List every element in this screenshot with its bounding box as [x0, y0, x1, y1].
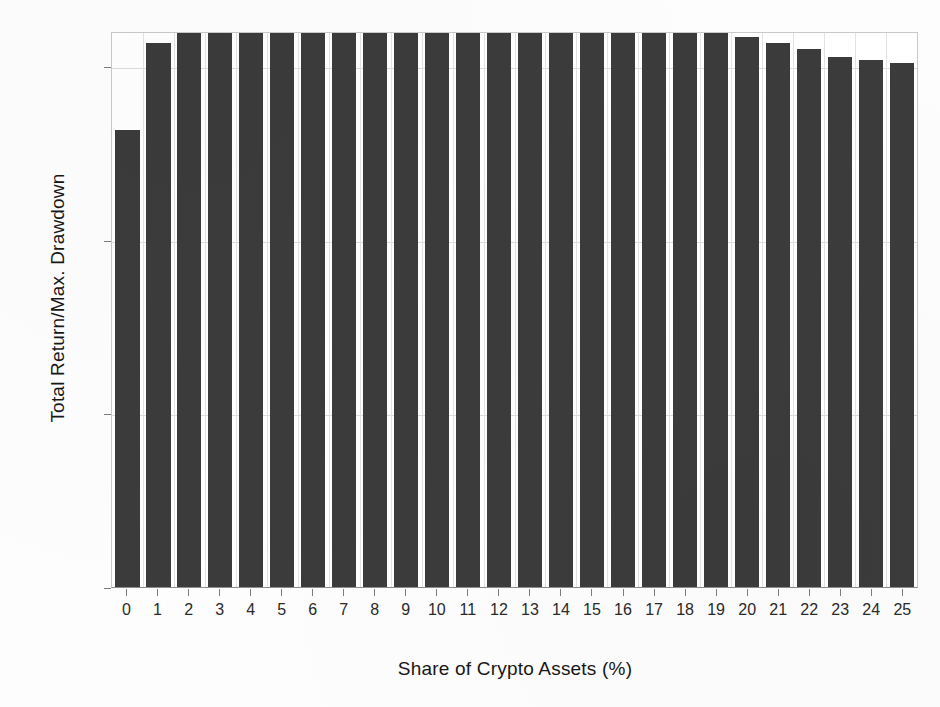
- bar[interactable]: [642, 32, 666, 587]
- x-tick-slot: 24: [856, 589, 887, 635]
- x-tick-mark: [250, 589, 251, 596]
- x-tick-mark: [902, 589, 903, 596]
- x-tick-mark: [281, 589, 282, 596]
- x-tick-slot: 6: [297, 589, 328, 635]
- bar[interactable]: [766, 43, 790, 587]
- x-tick-label: 10: [428, 601, 446, 619]
- bar[interactable]: [394, 32, 418, 587]
- bar[interactable]: [425, 32, 449, 587]
- bar-slot: [762, 33, 793, 587]
- bar[interactable]: [890, 63, 914, 587]
- x-tick-mark: [467, 589, 468, 596]
- bar-slot: [112, 33, 143, 587]
- x-tick-mark: [654, 589, 655, 596]
- x-tick-mark: [157, 589, 158, 596]
- bar-slot: [360, 33, 391, 587]
- x-tick-slot: 15: [576, 589, 607, 635]
- x-tick-slot: 13: [514, 589, 545, 635]
- x-tick-label: 14: [552, 601, 570, 619]
- x-tick-slot: 10: [421, 589, 452, 635]
- x-tick-slot: 5: [266, 589, 297, 635]
- bar-slot: [515, 33, 546, 587]
- x-tick-label: 15: [583, 601, 601, 619]
- bar[interactable]: [239, 32, 263, 587]
- x-tick-mark: [685, 589, 686, 596]
- bar-slot: [855, 33, 886, 587]
- bar[interactable]: [859, 60, 883, 587]
- x-tick-slot: 14: [545, 589, 576, 635]
- bar-slot: [298, 33, 329, 587]
- x-tick-mark: [529, 589, 530, 596]
- x-tick-label: 23: [831, 601, 849, 619]
- x-tick-slot: 7: [328, 589, 359, 635]
- x-tick-slot: 8: [359, 589, 390, 635]
- x-tick-mark: [436, 589, 437, 596]
- x-tick-slot: 11: [452, 589, 483, 635]
- x-tick-label: 24: [862, 601, 880, 619]
- bar[interactable]: [115, 130, 139, 587]
- bar-chart: Total Return/Max. Drawdown 0%2%5%8% 0123…: [0, 0, 940, 707]
- bar-series: [112, 33, 917, 587]
- x-tick-slot: 25: [887, 589, 918, 635]
- bar-slot: [174, 33, 205, 587]
- bar[interactable]: [487, 32, 511, 587]
- x-tick-mark: [591, 589, 592, 596]
- y-tick-mark: [104, 414, 111, 415]
- bar-slot: [236, 33, 267, 587]
- x-tick-label: 20: [738, 601, 756, 619]
- bar-slot: [546, 33, 577, 587]
- x-tick-mark: [188, 589, 189, 596]
- x-tick-slot: 16: [608, 589, 639, 635]
- bar-slot: [731, 33, 762, 587]
- x-tick-label: 7: [339, 601, 348, 619]
- plot-area: [111, 32, 918, 588]
- x-tick-label: 12: [490, 601, 508, 619]
- x-tick-label: 3: [215, 601, 224, 619]
- x-tick-label: 25: [893, 601, 911, 619]
- bar[interactable]: [797, 49, 821, 587]
- bar[interactable]: [208, 32, 232, 587]
- x-tick-label: 13: [521, 601, 539, 619]
- x-tick-slot: 12: [483, 589, 514, 635]
- bar[interactable]: [549, 32, 573, 587]
- x-tick-label: 16: [614, 601, 632, 619]
- bar[interactable]: [301, 32, 325, 587]
- bar-slot: [793, 33, 824, 587]
- x-tick-mark: [716, 589, 717, 596]
- x-tick-mark: [560, 589, 561, 596]
- x-tick-slot: 19: [701, 589, 732, 635]
- x-tick-mark: [623, 589, 624, 596]
- bar[interactable]: [735, 37, 759, 587]
- bar-slot: [205, 33, 236, 587]
- x-tick-label: 21: [769, 601, 787, 619]
- x-tick-label: 17: [645, 601, 663, 619]
- bar[interactable]: [456, 32, 480, 587]
- x-tick-label: 6: [308, 601, 317, 619]
- bar-slot: [329, 33, 360, 587]
- bar[interactable]: [332, 32, 356, 587]
- bar-slot: [824, 33, 855, 587]
- bar[interactable]: [704, 32, 728, 587]
- bar[interactable]: [673, 32, 697, 587]
- bar[interactable]: [146, 43, 170, 587]
- bar[interactable]: [177, 32, 201, 587]
- x-axis-title: Share of Crypto Assets (%): [110, 658, 920, 680]
- bar[interactable]: [611, 32, 635, 587]
- bar-slot: [453, 33, 484, 587]
- x-tick-mark: [747, 589, 748, 596]
- bar-slot: [267, 33, 298, 587]
- bar[interactable]: [580, 32, 604, 587]
- bar[interactable]: [518, 32, 542, 587]
- y-tick-mark: [104, 67, 111, 68]
- bar-slot: [422, 33, 453, 587]
- bar[interactable]: [828, 57, 852, 587]
- x-tick-mark: [126, 589, 127, 596]
- y-axis-title: Total Return/Max. Drawdown: [47, 128, 69, 468]
- x-tick-slot: 17: [639, 589, 670, 635]
- x-tick-mark: [312, 589, 313, 596]
- y-tick-mark: [104, 588, 111, 589]
- x-tick-mark: [405, 589, 406, 596]
- x-tick-label: 4: [246, 601, 255, 619]
- bar[interactable]: [270, 32, 294, 587]
- bar[interactable]: [363, 32, 387, 587]
